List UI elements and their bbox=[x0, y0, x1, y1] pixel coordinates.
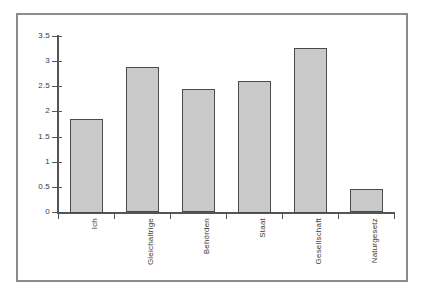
y-axis-tick-label-text: 3.5 bbox=[18, 32, 50, 40]
y-axis-tick-label: 3 bbox=[16, 57, 50, 65]
y-axis-tick-label-text: 2 bbox=[18, 107, 50, 115]
x-axis-tick bbox=[338, 212, 339, 219]
bar bbox=[294, 48, 327, 213]
y-axis-tick-label: 1 bbox=[16, 158, 50, 166]
bar bbox=[70, 119, 103, 213]
y-axis-tick-label-text: 1 bbox=[18, 158, 50, 166]
x-axis-origin-tick bbox=[58, 212, 59, 219]
x-axis-tick bbox=[282, 212, 283, 219]
y-axis-tick-label: 3.5 bbox=[16, 32, 50, 40]
y-axis-tick-label: 2.5 bbox=[16, 82, 50, 90]
x-axis-tick bbox=[226, 212, 227, 219]
y-axis-tick bbox=[52, 137, 62, 138]
y-axis-tick-label-text: 2.5 bbox=[18, 82, 50, 90]
y-axis-tick-label-text: 3 bbox=[18, 57, 50, 65]
bar-chart: 00.511.522.533.5 IchGleichaltrigeBehörde… bbox=[0, 0, 424, 303]
y-axis-tick bbox=[52, 212, 62, 213]
y-axis-tick-label-text: 0 bbox=[18, 208, 50, 216]
x-axis-category-label-text: Gesellschaft bbox=[314, 218, 323, 264]
bar bbox=[238, 81, 271, 213]
y-axis-tick bbox=[52, 61, 62, 62]
x-axis-category-label-text: Staat bbox=[258, 218, 267, 238]
x-axis-tick bbox=[114, 212, 115, 219]
x-axis-category-label-text: Gleichaltrige bbox=[146, 218, 155, 265]
y-axis-tick-label: 0.5 bbox=[16, 183, 50, 191]
y-axis-tick-label: 2 bbox=[16, 107, 50, 115]
y-axis-tick bbox=[52, 86, 62, 87]
y-axis-tick bbox=[52, 162, 62, 163]
x-axis-tick bbox=[394, 212, 395, 219]
x-axis-category-label-text: Ich bbox=[90, 218, 99, 229]
bar bbox=[182, 89, 215, 212]
x-axis-tick bbox=[170, 212, 171, 219]
bar bbox=[350, 189, 383, 212]
y-axis-tick bbox=[52, 36, 62, 37]
y-axis-tick bbox=[52, 187, 62, 188]
bar bbox=[126, 67, 159, 212]
x-axis-category-label-text: Behörden bbox=[202, 218, 211, 254]
x-axis-category-label-text: Naturgesetz bbox=[370, 218, 379, 263]
y-axis-tick bbox=[52, 111, 62, 112]
y-axis-tick-label: 1.5 bbox=[16, 133, 50, 141]
y-axis-tick-label-text: 1.5 bbox=[18, 133, 50, 141]
y-axis-tick-label-text: 0.5 bbox=[18, 183, 50, 191]
y-axis-tick-label: 0 bbox=[16, 208, 50, 216]
